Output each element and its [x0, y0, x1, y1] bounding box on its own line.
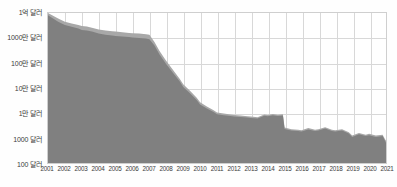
y-tick-label: 1000 달러 [13, 134, 42, 144]
area-chart: 1억 달러1000만 달러100만 달러10만 달러1만 달러1000 달러10… [0, 0, 397, 187]
x-tick-label: 2009 [176, 165, 189, 172]
x-tick-label: 2018 [329, 165, 342, 172]
x-tick-label: 2019 [346, 165, 359, 172]
x-tick-label: 2011 [211, 165, 224, 172]
x-tick-label: 2012 [227, 165, 240, 172]
x-tick-label: 2005 [108, 165, 121, 172]
x-tick-label: 2014 [261, 165, 274, 172]
x-tick-label: 2010 [193, 165, 206, 172]
x-tick-label: 2013 [244, 165, 257, 172]
y-tick-label: 100만 달러 [11, 58, 42, 68]
x-tick-label: 2020 [363, 165, 376, 172]
y-axis: 1억 달러1000만 달러100만 달러10만 달러1만 달러1000 달러10… [0, 12, 45, 164]
x-tick-label: 2007 [142, 165, 155, 172]
x-axis: 2001200220032004200520062007200820092010… [47, 165, 387, 179]
y-tick-label: 1억 달러 [19, 7, 42, 17]
x-tick-label: 2006 [125, 165, 138, 172]
x-tick-label: 2021 [380, 165, 393, 172]
y-tick-label: 10만 달러 [15, 83, 42, 93]
series-layer [48, 13, 386, 163]
y-tick-label: 1000만 달러 [7, 32, 42, 42]
x-tick-label: 2002 [57, 165, 70, 172]
x-tick-label: 2015 [278, 165, 291, 172]
x-tick-label: 2004 [91, 165, 104, 172]
area-band-lower [48, 15, 386, 163]
x-tick-label: 2017 [312, 165, 325, 172]
x-tick-label: 2016 [295, 165, 308, 172]
x-tick-label: 2001 [40, 165, 53, 172]
x-tick-label: 2008 [159, 165, 172, 172]
y-tick-label: 1만 달러 [19, 108, 42, 118]
area-series-svg [48, 13, 386, 163]
y-tick-label: 100 달러 [17, 159, 42, 169]
x-tick-label: 2003 [74, 165, 87, 172]
plot-area [47, 12, 387, 164]
